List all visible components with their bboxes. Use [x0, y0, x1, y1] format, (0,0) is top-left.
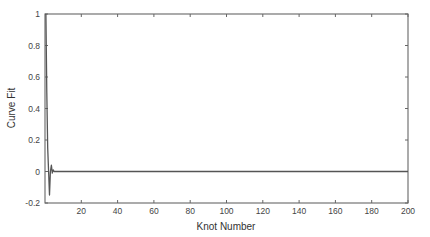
- plot-border: [45, 14, 408, 203]
- x-tick-label: 140: [292, 206, 306, 216]
- x-tick-label: 80: [185, 206, 195, 216]
- x-tick-label: 180: [365, 206, 379, 216]
- x-tick-label: 60: [149, 206, 159, 216]
- curve-fit-chart: 20406080100120140160180200 -0.200.20.40.…: [0, 0, 430, 237]
- series-line: [46, 14, 408, 195]
- data-series: [46, 14, 408, 195]
- x-tick-label: 40: [113, 206, 123, 216]
- x-tick-label: 160: [328, 206, 342, 216]
- x-tick-label: 100: [219, 206, 233, 216]
- y-tick-label: -0.2: [25, 198, 40, 208]
- x-axis-label: Knot Number: [197, 221, 257, 232]
- plot-frame: [45, 14, 408, 203]
- y-axis-label: Curve Fit: [6, 87, 17, 128]
- y-tick-label: 0.6: [28, 72, 40, 82]
- y-tick-label: 0.8: [28, 41, 40, 51]
- x-tick-label: 120: [256, 206, 270, 216]
- y-tick-label: 0: [35, 167, 40, 177]
- y-tick-label: 0.4: [28, 104, 40, 114]
- y-tick-label: 0.2: [28, 135, 40, 145]
- x-axis-ticks: 20406080100120140160180200: [77, 14, 416, 216]
- x-tick-label: 20: [77, 206, 87, 216]
- y-tick-label: 1: [35, 9, 40, 19]
- x-tick-label: 200: [401, 206, 415, 216]
- y-axis-ticks: -0.200.20.40.60.81: [25, 9, 408, 208]
